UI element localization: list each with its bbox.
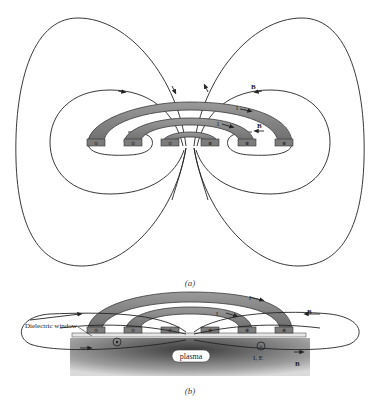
label-i-inner: I (217, 121, 219, 127)
coil-mark: ⊗ (245, 141, 249, 146)
arrow-left-outer (172, 86, 175, 92)
coil-mark: ⊗ (282, 328, 286, 333)
coil-a: ⊙ ⊙ ⊙ ⊗ ⊗ ⊗ (87, 102, 293, 146)
outer-field-lines (16, 18, 364, 266)
inductive-coil-diagram: ⊙ ⊙ ⊙ ⊗ ⊗ ⊗ B I I B (a) (0, 0, 380, 401)
label-b-upper: B (251, 83, 256, 91)
coil-mark: ⊙ (131, 141, 135, 146)
coil-mark: ⊙ (168, 141, 172, 146)
caption-a: (a) (185, 278, 196, 288)
coil-middle-ring (124, 118, 254, 142)
label-induced-ie: I, E (253, 354, 263, 362)
coil-b: ⊙ ⊙ ⊙ ⊗ ⊗ ⊗ (87, 292, 293, 333)
caption-b: (b) (185, 386, 196, 396)
plasma-label: plasma (180, 352, 203, 361)
coil-mark: ⊙ (94, 328, 98, 333)
label-b-lower: B (257, 122, 262, 130)
label-i-outer-b: I (249, 295, 251, 301)
svg-text:×: × (259, 343, 263, 351)
coil-mark: ⊙ (94, 141, 98, 146)
coil-mark: ⊗ (245, 328, 249, 333)
label-i-outer: I (236, 105, 238, 111)
coil-mark: ⊗ (208, 141, 212, 146)
coil-mark: ⊙ (131, 328, 135, 333)
coil-blocks-a (87, 139, 293, 146)
arrow-right-outer (205, 86, 208, 92)
label-i-inner-b: I (216, 311, 218, 317)
figure-a: ⊙ ⊙ ⊙ ⊗ ⊗ ⊗ B I I B (a) (16, 18, 364, 288)
label-b-lower-b: B (295, 360, 300, 368)
figure-b: ⊙ ⊙ ⊙ ⊗ ⊗ ⊗ × (21, 292, 359, 396)
coil-mark: ⊗ (282, 141, 286, 146)
label-b-upper-b: B (307, 308, 312, 316)
dielectric-window (72, 333, 306, 337)
dielectric-window-label: Dielectric window (25, 322, 78, 330)
